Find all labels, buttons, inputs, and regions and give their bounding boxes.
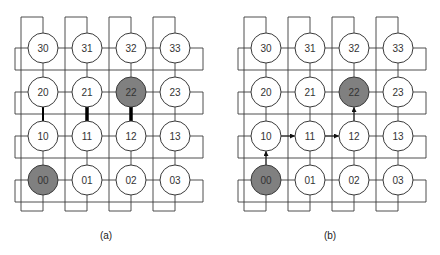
node-label: 31	[304, 43, 316, 54]
node-label: 10	[37, 131, 49, 142]
node-label: 03	[392, 175, 404, 186]
node-label: 23	[392, 87, 404, 98]
node-label: 32	[348, 43, 360, 54]
node-20: 20	[28, 77, 58, 107]
node-label: 02	[125, 175, 137, 186]
node-21: 21	[72, 77, 102, 107]
node-22: 22	[339, 77, 369, 107]
node-label: 12	[125, 131, 137, 142]
panel-b: 30313233202122231011121300010203	[238, 17, 426, 211]
node-label: 30	[260, 43, 272, 54]
node-label: 23	[169, 87, 181, 98]
node-label: 31	[81, 43, 93, 54]
node-10: 10	[28, 121, 58, 151]
node-30: 30	[251, 33, 281, 63]
node-33: 33	[160, 33, 190, 63]
node-label: 33	[392, 43, 404, 54]
node-12: 12	[116, 121, 146, 151]
node-label: 01	[81, 175, 93, 186]
node-label: 11	[82, 131, 93, 142]
node-23: 23	[383, 77, 413, 107]
node-31: 31	[295, 33, 325, 63]
node-label: 13	[392, 131, 404, 142]
node-label: 03	[169, 175, 181, 186]
node-label: 21	[81, 87, 93, 98]
node-02: 02	[116, 165, 146, 195]
node-20: 20	[251, 77, 281, 107]
node-label: 00	[260, 175, 272, 186]
node-label: 32	[125, 43, 137, 54]
node-label: 01	[304, 175, 316, 186]
node-label: 21	[304, 87, 316, 98]
node-03: 03	[383, 165, 413, 195]
node-02: 02	[339, 165, 369, 195]
node-32: 32	[116, 33, 146, 63]
node-label: 30	[37, 43, 49, 54]
diagram-canvas: 30313233202122231011121300010203 3031323…	[0, 0, 440, 255]
node-30: 30	[28, 33, 58, 63]
node-label: 13	[169, 131, 181, 142]
node-03: 03	[160, 165, 190, 195]
node-01: 01	[295, 165, 325, 195]
node-00: 00	[28, 165, 58, 195]
node-label: 00	[37, 175, 49, 186]
node-label: 33	[169, 43, 181, 54]
panel-a: 30313233202122231011121300010203	[15, 17, 203, 211]
node-22: 22	[116, 77, 146, 107]
node-13: 13	[383, 121, 413, 151]
node-32: 32	[339, 33, 369, 63]
node-label: 11	[305, 131, 316, 142]
node-12: 12	[339, 121, 369, 151]
node-10: 10	[251, 121, 281, 151]
node-label: 02	[348, 175, 360, 186]
caption-b: (b)	[324, 230, 336, 241]
node-label: 12	[348, 131, 360, 142]
node-11: 11	[72, 121, 102, 151]
node-33: 33	[383, 33, 413, 63]
node-01: 01	[72, 165, 102, 195]
node-21: 21	[295, 77, 325, 107]
caption-a: (a)	[100, 230, 112, 241]
node-31: 31	[72, 33, 102, 63]
node-00: 00	[251, 165, 281, 195]
node-label: 22	[348, 87, 360, 98]
node-label: 20	[37, 87, 49, 98]
node-label: 10	[260, 131, 272, 142]
node-label: 22	[125, 87, 137, 98]
node-11: 11	[295, 121, 325, 151]
node-13: 13	[160, 121, 190, 151]
node-23: 23	[160, 77, 190, 107]
torus-diagram-figure: 30313233202122231011121300010203 3031323…	[0, 0, 440, 255]
node-label: 20	[260, 87, 272, 98]
